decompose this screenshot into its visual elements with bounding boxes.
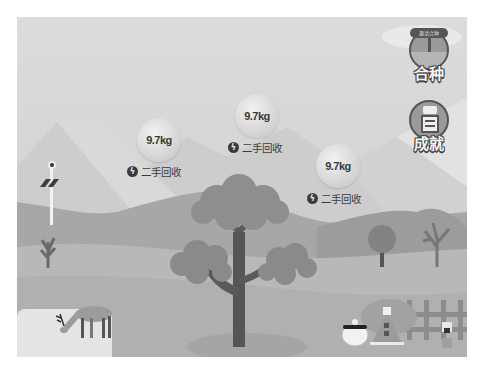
energy-source-label: 二手回收 bbox=[321, 191, 361, 206]
energy-value: 9.7kg bbox=[244, 110, 270, 122]
main-tree[interactable] bbox=[167, 172, 317, 347]
energy-bubble-3[interactable]: 9.7kg bbox=[316, 144, 360, 188]
solar-lamp bbox=[37, 157, 67, 227]
energy-bubble-1[interactable]: 9.7kg bbox=[137, 118, 181, 162]
co-plant-label: 合种 bbox=[414, 62, 444, 83]
pet-bird[interactable] bbox=[340, 317, 370, 347]
energy-value: 9.7kg bbox=[325, 160, 351, 172]
lightning-icon: ϟ bbox=[127, 166, 138, 177]
energy-source-2: ϟ 二手回收 bbox=[228, 140, 282, 155]
co-plant-badge: 邀请合种 bbox=[410, 28, 448, 38]
energy-source-label: 二手回收 bbox=[242, 140, 282, 155]
distant-tree bbox=[365, 222, 400, 267]
deer bbox=[52, 300, 117, 340]
energy-value: 9.7kg bbox=[146, 134, 172, 146]
achievement-button[interactable]: 成就 bbox=[405, 100, 453, 153]
lightning-icon: ϟ bbox=[228, 142, 239, 153]
hut[interactable] bbox=[369, 307, 405, 347]
bare-tree bbox=[419, 217, 455, 267]
lightning-icon: ϟ bbox=[307, 193, 318, 204]
shrub bbox=[37, 230, 59, 268]
flower-pot bbox=[439, 320, 455, 350]
energy-source-3: ϟ 二手回收 bbox=[307, 191, 361, 206]
forest-scene: 9.7kg ϟ 二手回收 9.7kg ϟ 二手回收 9.7kg ϟ 二手回收 邀… bbox=[17, 17, 467, 357]
achievement-label: 成就 bbox=[414, 132, 444, 153]
co-plant-button[interactable]: 邀请合种 合种 bbox=[405, 30, 453, 83]
energy-source-1: ϟ 二手回收 bbox=[127, 164, 181, 179]
energy-bubble-2[interactable]: 9.7kg bbox=[235, 94, 279, 138]
energy-source-label: 二手回收 bbox=[141, 164, 181, 179]
